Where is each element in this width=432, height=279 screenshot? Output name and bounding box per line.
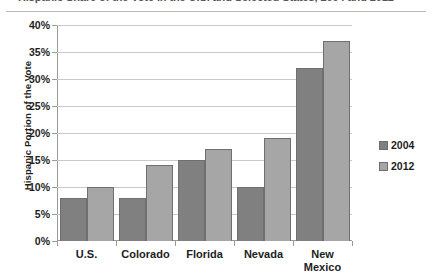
bar-2004-u-s <box>60 198 87 241</box>
x-tick-mark <box>175 241 176 246</box>
bar-2012-u-s <box>87 187 114 241</box>
x-tick-mark <box>234 241 235 246</box>
legend-swatch-icon <box>379 162 388 171</box>
bar-group <box>116 25 175 241</box>
bar-2012-new-mexico <box>323 41 350 241</box>
x-axis-label-colorado: Colorado <box>116 248 175 274</box>
bar-2012-florida <box>205 149 232 241</box>
bar-chart: Hispanic Share of the Vote in the U.S. a… <box>0 0 432 279</box>
bar-2004-nevada <box>237 187 264 241</box>
y-tick-label: 25% <box>29 100 50 112</box>
bar-2012-colorado <box>146 165 173 241</box>
y-tick-label: 0% <box>35 235 50 247</box>
bar-groups <box>57 25 352 241</box>
legend-label: 2012 <box>391 160 414 172</box>
bar-2004-colorado <box>119 198 146 241</box>
legend-item-2004[interactable]: 2004 <box>379 139 414 151</box>
legend-item-2012[interactable]: 2012 <box>379 160 414 172</box>
legend-label: 2004 <box>391 139 414 151</box>
chart-legend: 20042012 <box>379 139 414 181</box>
y-tick-label: 10% <box>29 181 50 193</box>
y-tick-label: 35% <box>29 46 50 58</box>
x-axis-label-new-mexico: NewMexico <box>293 248 352 274</box>
x-tick-mark <box>116 241 117 246</box>
y-tick-label: 20% <box>29 127 50 139</box>
plot-area: 40%35%30%25%20%15%10%5%0% <box>57 25 352 241</box>
y-tick-label: 5% <box>35 208 50 220</box>
chart-title-strip: Hispanic Share of the Vote in the U.S. a… <box>0 0 432 9</box>
chart-title: Hispanic Share of the Vote in the U.S. a… <box>18 0 418 3</box>
x-axis-label-u-s: U.S. <box>57 248 116 274</box>
bar-group <box>175 25 234 241</box>
x-axis-label-nevada: Nevada <box>234 248 293 274</box>
legend-swatch-icon <box>379 141 388 150</box>
y-tick-label: 15% <box>29 154 50 166</box>
y-tick-label: 40% <box>29 19 50 31</box>
x-tick-mark <box>57 241 58 246</box>
x-axis-labels: U.S.ColoradoFloridaNevadaNewMexico <box>57 248 352 274</box>
bar-group <box>57 25 116 241</box>
y-tick-label: 30% <box>29 73 50 85</box>
x-tick-mark <box>352 241 353 246</box>
bar-group <box>234 25 293 241</box>
x-tick-mark <box>293 241 294 246</box>
bar-2012-nevada <box>264 138 291 241</box>
x-axis-label-florida: Florida <box>175 248 234 274</box>
title-divider <box>6 11 426 12</box>
bar-2004-new-mexico <box>296 68 323 241</box>
bar-group <box>293 25 352 241</box>
bar-2004-florida <box>178 160 205 241</box>
